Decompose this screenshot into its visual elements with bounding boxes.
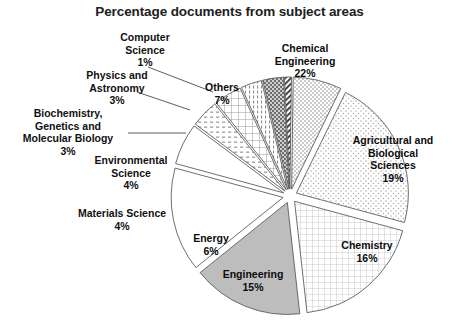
label-energy: Energy 6% xyxy=(183,232,239,257)
label-computer-science: Computer Science 1% xyxy=(99,31,191,69)
label-biochemistry-genetics-molecular-biology: Biochemistry, Genetics and Molecular Bio… xyxy=(7,107,129,157)
label-materials-science: Materials Science 4% xyxy=(67,207,177,232)
pie-chart-figure: Percentage documents from subject areas xyxy=(0,0,459,323)
label-agricultural-and-biological-sciences: Agricultural and Biological Sciences 19% xyxy=(340,134,446,184)
label-chemical-engineering: Chemical Engineering 22% xyxy=(263,42,347,80)
label-chemistry: Chemistry 16% xyxy=(333,239,401,264)
label-others: Others 7% xyxy=(198,81,246,106)
label-physics-and-astronomy: Physics and Astronomy 3% xyxy=(68,69,166,107)
label-environmental-science: Environmental Science 4% xyxy=(85,154,177,192)
label-engineering: Engineering 15% xyxy=(213,268,293,293)
